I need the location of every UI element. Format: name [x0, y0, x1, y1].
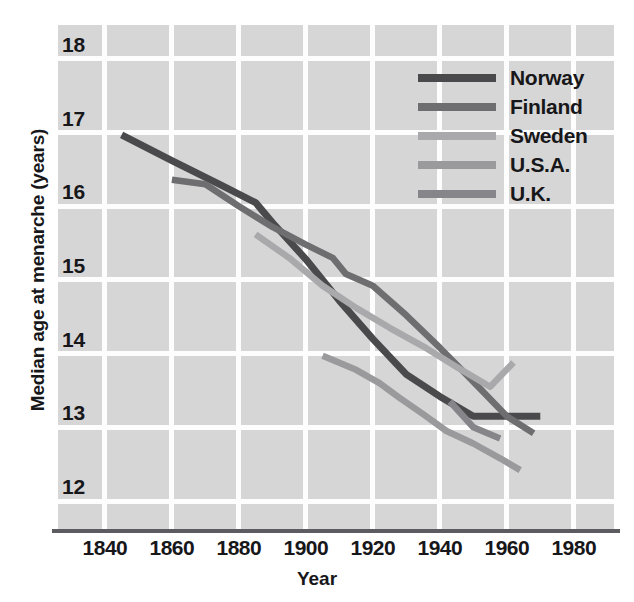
x-axis-title: Year — [0, 568, 634, 590]
legend-label: U.S.A. — [510, 153, 570, 177]
series-line-sweden — [256, 234, 514, 386]
legend-label: Norway — [510, 66, 584, 90]
legend-swatch-icon — [418, 190, 496, 198]
legend-swatch-icon — [418, 132, 496, 140]
y-tick-label: 13 — [62, 401, 102, 425]
legend-item-uk[interactable]: U.K. — [418, 179, 588, 208]
legend-label: Finland — [510, 95, 583, 119]
chart-legend: NorwayFinlandSwedenU.S.A.U.K. — [418, 63, 588, 208]
legend-swatch-icon — [418, 103, 496, 111]
legend-item-usa[interactable]: U.S.A. — [418, 150, 588, 179]
legend-item-finland[interactable]: Finland — [418, 92, 588, 121]
legend-item-sweden[interactable]: Sweden — [418, 121, 588, 150]
y-tick-label: 17 — [62, 107, 102, 131]
y-tick-label: 16 — [62, 180, 102, 204]
legend-item-norway[interactable]: Norway — [418, 63, 588, 92]
legend-label: U.K. — [510, 182, 551, 206]
y-tick-label: 12 — [62, 475, 102, 499]
y-tick-label: 15 — [62, 254, 102, 278]
y-axis-title: Median age at menarche (years) — [27, 20, 49, 520]
y-tick-label: 14 — [62, 328, 102, 352]
x-axis-line — [52, 529, 620, 533]
y-tick-label: 18 — [62, 33, 102, 57]
legend-swatch-icon — [418, 74, 496, 82]
x-tick-label: 1980 — [529, 536, 619, 560]
legend-swatch-icon — [418, 161, 496, 169]
chart-figure: Median age at menarche (years) Year Norw… — [0, 0, 634, 602]
legend-label: Sweden — [510, 124, 588, 148]
